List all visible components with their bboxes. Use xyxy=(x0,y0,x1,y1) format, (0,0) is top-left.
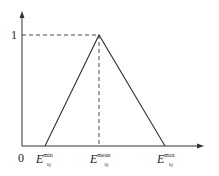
origin-label: 0 xyxy=(18,152,24,164)
membership-line xyxy=(45,35,165,146)
sup-max: max xyxy=(164,152,174,158)
sup-mean: mean xyxy=(97,152,110,158)
x-tick-max: Emaxlij xyxy=(157,153,179,165)
x-tick-mean: Emeanlij xyxy=(90,153,115,165)
y-axis-arrow-icon xyxy=(20,11,25,18)
x-tick-min: Eminlij xyxy=(36,153,57,165)
sub-lij: lij xyxy=(169,162,173,167)
x-axis-arrow-icon xyxy=(197,144,204,149)
sub-lij: lij xyxy=(47,162,51,167)
y-tick-1: 1 xyxy=(11,29,17,41)
chart-canvas xyxy=(0,0,219,176)
sup-min: min xyxy=(43,152,52,158)
sub-lij: lij xyxy=(104,162,108,167)
